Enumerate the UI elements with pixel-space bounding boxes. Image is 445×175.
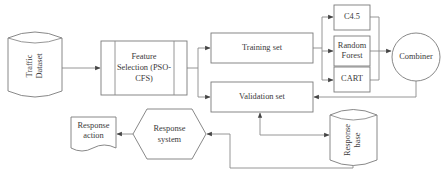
response-system-label-1: Response: [153, 124, 185, 133]
edge-validation-response-base: [260, 113, 329, 135]
node-cart[interactable]: CART: [334, 67, 370, 92]
node-combiner[interactable]: Combiner: [392, 33, 440, 81]
cart-label: CART: [341, 74, 363, 83]
feature-selection-label-1: Feature: [131, 52, 156, 61]
node-training-set[interactable]: Training set: [211, 33, 313, 63]
node-response-system[interactable]: Response system: [133, 109, 206, 159]
traffic-dataset-label-1: Traffic: [25, 54, 34, 77]
training-set-label: Training set: [242, 43, 283, 52]
feature-selection-label-2: Selection (PSO-: [117, 63, 171, 72]
random-forest-label-1: Random: [338, 41, 367, 50]
node-feature-selection[interactable]: Feature Selection (PSO- CFS): [101, 41, 187, 95]
response-action-label-1: Response: [77, 121, 109, 130]
node-validation-set[interactable]: Validation set: [211, 82, 313, 112]
validation-set-label: Validation set: [239, 92, 285, 101]
response-base-label-2: base: [353, 132, 362, 147]
feature-selection-label-3: CFS): [135, 74, 153, 83]
flowchart-canvas: Traffic Dataset Feature Selection (PSO- …: [0, 0, 445, 175]
node-traffic-dataset[interactable]: Traffic Dataset: [8, 32, 62, 97]
edge-feature-to-validation: [198, 68, 210, 97]
node-c45[interactable]: C4.5: [334, 5, 370, 30]
node-response-base[interactable]: Response base: [330, 110, 377, 166]
node-random-forest[interactable]: Random Forest: [334, 36, 370, 66]
random-forest-label-2: Forest: [342, 51, 364, 60]
c45-label: C4.5: [344, 12, 360, 21]
combiner-label: Combiner: [399, 52, 433, 61]
response-base-label-1: Response: [343, 124, 352, 156]
traffic-dataset-label-2: Dataset: [35, 53, 44, 79]
response-action-label-2: action: [83, 131, 104, 140]
response-system-label-2: system: [158, 135, 182, 144]
node-response-action[interactable]: Response action: [71, 117, 116, 151]
edge-classifiers-merge: [370, 17, 379, 80]
edge-feature-to-training: [187, 48, 210, 68]
